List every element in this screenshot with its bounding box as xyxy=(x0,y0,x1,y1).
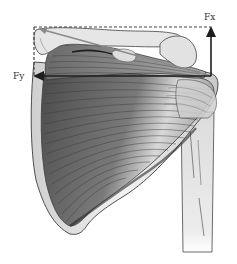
fx-arrowhead-icon xyxy=(206,26,216,37)
fx-label: Fx xyxy=(204,12,215,22)
shoulder-anatomy-figure xyxy=(0,0,237,264)
fy-label: Fy xyxy=(13,71,24,81)
fx-vector xyxy=(206,26,216,76)
diagram-canvas: Fx Fy xyxy=(0,0,237,264)
